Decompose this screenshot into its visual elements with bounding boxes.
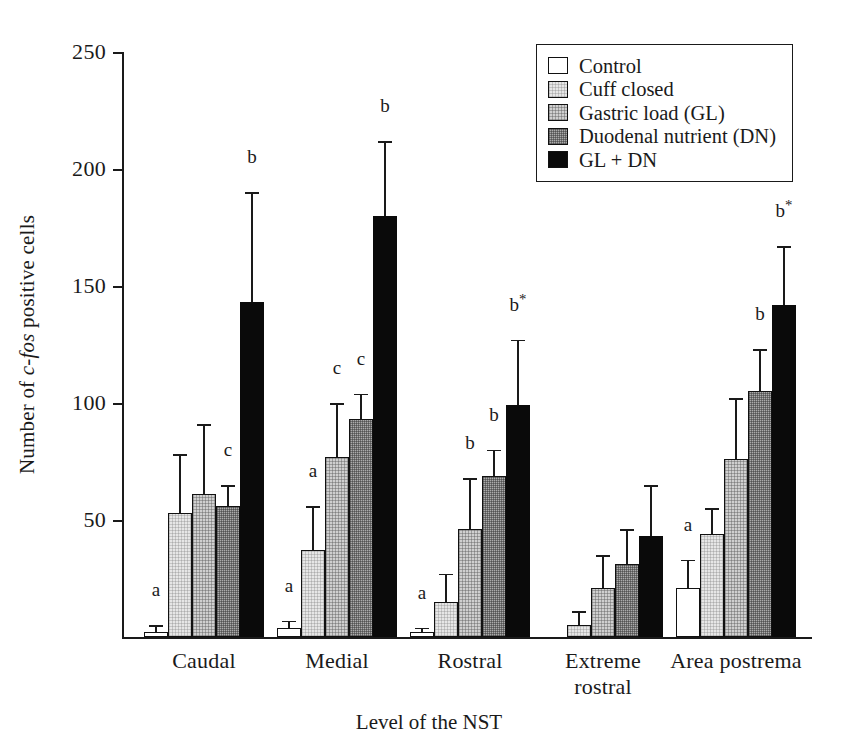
- bar[interactable]: [240, 302, 264, 637]
- figure-bar-chart: Number of c-fos positive cells 501001502…: [0, 0, 858, 752]
- bar[interactable]: [301, 550, 325, 637]
- bar[interactable]: [434, 602, 458, 637]
- bar[interactable]: [506, 405, 530, 637]
- error-bar: [384, 141, 386, 216]
- significance-annotation: b: [247, 147, 257, 166]
- y-axis-tick: 100: [113, 403, 122, 405]
- error-bar-cap: [729, 398, 743, 400]
- legend-item[interactable]: Cuff closed: [548, 78, 776, 102]
- significance-annotation: b*: [776, 201, 793, 220]
- error-bar: [783, 246, 785, 305]
- bar[interactable]: [700, 534, 724, 637]
- error-bar: [251, 192, 253, 302]
- significance-annotation: a: [152, 580, 160, 599]
- significance-annotation: c: [357, 349, 365, 368]
- significance-annotation: b: [380, 96, 390, 115]
- legend-label: Control: [579, 56, 642, 77]
- legend-swatch: [548, 128, 568, 145]
- bar[interactable]: [216, 506, 240, 637]
- bar[interactable]: [373, 216, 397, 637]
- bar[interactable]: [615, 564, 639, 637]
- bar-group: aaccb: [277, 52, 397, 637]
- significance-annotation: c: [224, 440, 232, 459]
- error-bar-cap: [777, 246, 791, 248]
- error-bar: [578, 611, 580, 625]
- bar[interactable]: [168, 513, 192, 637]
- bar[interactable]: [349, 419, 373, 637]
- y-axis-tick: 250: [113, 52, 122, 54]
- bar[interactable]: [325, 457, 349, 637]
- error-bar-cap: [511, 340, 525, 342]
- x-axis-line: [122, 637, 812, 639]
- error-bar-cap: [463, 478, 477, 480]
- error-bar: [445, 574, 447, 602]
- error-bar: [336, 403, 338, 457]
- error-bar-cap: [282, 621, 296, 623]
- error-bar-cap: [681, 560, 695, 562]
- error-bar-cap: [245, 192, 259, 194]
- error-bar-cap: [149, 625, 163, 627]
- bar[interactable]: [724, 459, 748, 637]
- error-bar: [469, 478, 471, 529]
- legend-label: Gastric load (GL): [579, 103, 725, 124]
- error-bar: [650, 485, 652, 536]
- legend-swatch: [548, 104, 568, 121]
- error-bar: [687, 560, 689, 588]
- bar[interactable]: [192, 494, 216, 637]
- error-bar-cap: [644, 485, 658, 487]
- error-bar: [203, 424, 205, 494]
- error-bar-cap: [221, 485, 235, 487]
- error-bar-cap: [354, 394, 368, 396]
- x-axis-category-label: Area postrema: [646, 648, 826, 674]
- error-bar: [179, 454, 181, 513]
- bar[interactable]: [144, 632, 168, 637]
- bar[interactable]: [482, 476, 506, 637]
- bar[interactable]: [639, 536, 663, 637]
- legend-item[interactable]: Control: [548, 54, 776, 78]
- legend-item[interactable]: Duodenal nutrient (DN): [548, 125, 776, 149]
- bar[interactable]: [591, 588, 615, 637]
- bar[interactable]: [410, 632, 434, 637]
- significance-annotation: a: [309, 461, 317, 480]
- legend-item[interactable]: Gastric load (GL): [548, 101, 776, 125]
- bar[interactable]: [748, 391, 772, 637]
- bar[interactable]: [676, 588, 700, 637]
- legend-swatch: [548, 81, 568, 98]
- x-axis-category-label-line: rostral: [513, 674, 693, 700]
- chart-legend: ControlCuff closedGastric load (GL)Duode…: [536, 44, 793, 182]
- y-axis-tick: 50: [113, 520, 122, 522]
- legend-label: Cuff closed: [579, 79, 674, 100]
- error-bar-cap: [173, 454, 187, 456]
- significance-annotation: b: [489, 405, 499, 424]
- legend-swatch: [548, 151, 568, 168]
- error-bar-cap: [572, 611, 586, 613]
- legend-label: GL + DN: [579, 150, 657, 171]
- error-bar: [360, 394, 362, 420]
- legend-swatch: [548, 57, 568, 74]
- error-bar: [288, 621, 290, 628]
- bar[interactable]: [772, 305, 796, 637]
- significance-annotation: a: [285, 576, 293, 595]
- legend-label: Duodenal nutrient (DN): [579, 126, 776, 147]
- error-bar-cap: [596, 555, 610, 557]
- bar-group: acb: [144, 52, 264, 637]
- error-bar-cap: [197, 424, 211, 426]
- y-axis-title-italic: c-fos: [16, 333, 40, 375]
- error-bar: [735, 398, 737, 459]
- y-axis-tick-label: 200: [72, 158, 106, 180]
- error-bar-cap: [439, 574, 453, 576]
- error-bar: [312, 506, 314, 550]
- significance-annotation: b: [465, 433, 475, 452]
- significance-annotation: b: [755, 304, 765, 323]
- y-axis-tick: 150: [113, 286, 122, 288]
- error-bar-cap: [753, 349, 767, 351]
- bar[interactable]: [567, 625, 591, 637]
- y-axis-tick: 200: [113, 169, 122, 171]
- bar[interactable]: [458, 529, 482, 637]
- y-axis-tick-label: 150: [72, 275, 106, 297]
- x-axis-category-label-line: Area postrema: [646, 648, 826, 674]
- error-bar: [517, 340, 519, 406]
- significance-annotation: c: [333, 358, 341, 377]
- legend-item[interactable]: GL + DN: [548, 148, 776, 172]
- bar[interactable]: [277, 628, 301, 637]
